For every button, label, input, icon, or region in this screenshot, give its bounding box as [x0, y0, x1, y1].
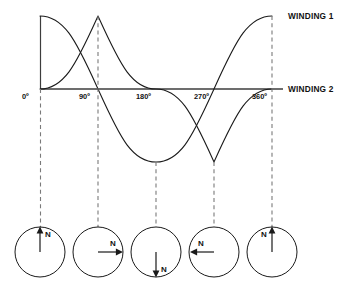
- arrowhead-left-icon: [190, 249, 197, 256]
- tick-label-90: 90º: [79, 92, 90, 101]
- rotor-270deg: N: [189, 227, 239, 277]
- tick-label-270: 270º: [194, 92, 209, 101]
- waveform-plot: 0º 90º 180º 270º 360º WINDING 1 WINDING …: [22, 11, 334, 162]
- rotor-0deg: N: [15, 227, 65, 278]
- tick-label-360: 360º: [252, 92, 267, 101]
- rotor-360deg: N: [247, 227, 297, 278]
- pole-label-n: N: [161, 265, 167, 274]
- tick-label-180: 180º: [136, 92, 151, 101]
- winding2-label: WINDING 2: [288, 84, 334, 94]
- diagram-canvas: 0º 90º 180º 270º 360º WINDING 1 WINDING …: [0, 0, 349, 286]
- arrowhead-right-icon: [116, 249, 123, 256]
- rotor-90deg: N: [73, 227, 123, 277]
- tick-label-0: 0º: [22, 92, 29, 101]
- rotor-180deg: N: [131, 227, 181, 278]
- pole-label-n: N: [110, 239, 116, 248]
- pole-label-n: N: [198, 239, 204, 248]
- pole-label-n: N: [261, 230, 267, 239]
- winding-waveform-diagram: 0º 90º 180º 270º 360º WINDING 1 WINDING …: [0, 0, 349, 286]
- winding1-label: WINDING 1: [288, 11, 334, 21]
- pole-label-n: N: [45, 230, 51, 239]
- drop-lines: [41, 16, 273, 227]
